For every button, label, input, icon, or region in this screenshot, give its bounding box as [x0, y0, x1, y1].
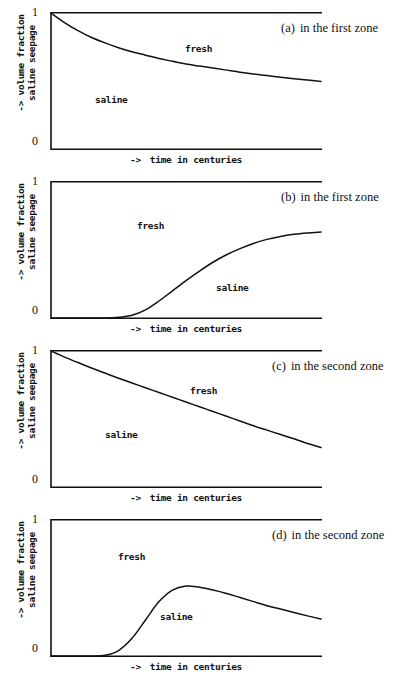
x-axis-arrow-c: -> — [130, 492, 141, 503]
x-axis-label-b: ->time in centuries — [50, 323, 322, 334]
x-axis-label-text-c: time in centuries — [150, 492, 242, 503]
panel-caption-text-b: in the first zone — [301, 190, 379, 204]
panel-a: -> volume fraction saline seepage 1 0 fr… — [0, 0, 420, 169]
x-axis-label-c: ->time in centuries — [50, 492, 322, 503]
x-axis-arrow-d: -> — [130, 661, 141, 672]
panel-caption-a: (a)in the first zone — [281, 21, 378, 36]
region-label-saline-b: saline — [216, 282, 249, 293]
panel-tag-c: (c) — [272, 359, 286, 373]
panel-tag-a: (a) — [281, 21, 295, 35]
x-axis-label-text-d: time in centuries — [150, 661, 242, 672]
panel-c: -> volume fraction saline seepage 1 0 fr… — [0, 338, 420, 507]
x-axis-arrow-b: -> — [130, 323, 141, 334]
region-label-saline-a: saline — [95, 94, 128, 105]
panel-caption-text-a: in the first zone — [300, 21, 378, 35]
region-label-fresh-c: fresh — [190, 385, 217, 396]
x-axis-label-text-a: time in centuries — [150, 154, 242, 165]
region-label-fresh-a: fresh — [185, 43, 212, 54]
panel-caption-text-c: in the second zone — [291, 359, 384, 373]
panel-tag-d: (d) — [272, 528, 287, 542]
curve-b — [51, 232, 321, 318]
panel-tag-b: (b) — [281, 190, 296, 204]
y-tick-top-a: 1 — [24, 5, 38, 20]
y-tick-bottom-b: 0 — [24, 303, 38, 318]
panel-d: -> volume fraction saline seepage 1 0 fr… — [0, 507, 420, 676]
saline-seepage-figure: -> volume fraction saline seepage 1 0 fr… — [0, 0, 420, 678]
region-label-saline-d: saline — [160, 611, 193, 622]
region-label-fresh-b: fresh — [137, 220, 164, 231]
x-axis-label-a: ->time in centuries — [50, 154, 322, 165]
region-label-saline-c: saline — [105, 429, 138, 440]
panel-caption-text-d: in the second zone — [292, 528, 385, 542]
y-tick-top-c: 1 — [24, 343, 38, 358]
panel-caption-b: (b)in the first zone — [281, 190, 379, 205]
y-tick-bottom-c: 0 — [24, 472, 38, 487]
panel-b: -> volume fraction saline seepage 1 0 fr… — [0, 169, 420, 338]
x-axis-label-text-b: time in centuries — [150, 323, 242, 334]
panel-caption-c: (c)in the second zone — [272, 359, 384, 374]
y-tick-top-d: 1 — [24, 512, 38, 527]
y-tick-top-b: 1 — [24, 174, 38, 189]
x-axis-label-d: ->time in centuries — [50, 661, 322, 672]
panel-caption-d: (d)in the second zone — [272, 528, 384, 543]
region-label-fresh-d: fresh — [118, 551, 145, 562]
y-tick-bottom-d: 0 — [24, 641, 38, 656]
y-tick-bottom-a: 0 — [24, 134, 38, 149]
x-axis-arrow-a: -> — [130, 154, 141, 165]
